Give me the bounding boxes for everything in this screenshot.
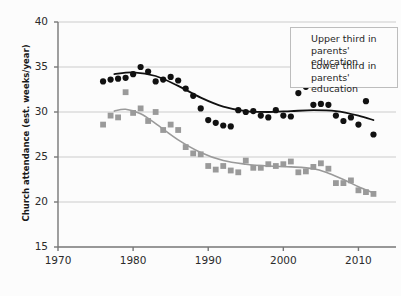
data-point — [138, 106, 144, 112]
y-tick-label: 15 — [22, 240, 48, 252]
data-point — [100, 122, 106, 128]
data-point — [288, 159, 294, 165]
data-point — [205, 163, 211, 169]
data-point — [205, 117, 211, 123]
data-point — [340, 118, 346, 124]
data-point — [280, 113, 286, 119]
legend-label-lower-third: Lower third in parents' education — [311, 60, 397, 95]
chart-figure: ...... ..... Church attendance (est. wee… — [0, 0, 401, 296]
data-point — [370, 131, 376, 137]
data-point — [318, 101, 324, 107]
data-point — [333, 113, 339, 119]
y-tick-label: 30 — [22, 105, 48, 117]
y-tick-label: 25 — [22, 150, 48, 162]
data-point — [355, 122, 361, 128]
data-point — [213, 167, 219, 173]
data-point — [228, 123, 234, 129]
data-point — [220, 122, 226, 128]
data-point — [175, 127, 181, 133]
data-point — [123, 89, 129, 95]
data-point — [303, 169, 309, 175]
data-point — [265, 114, 271, 120]
data-point — [115, 76, 121, 82]
data-point — [235, 169, 241, 175]
data-point — [138, 64, 144, 70]
y-tick-label: 35 — [22, 60, 48, 72]
data-point — [326, 166, 332, 172]
data-point — [153, 109, 159, 115]
series-lower-third — [100, 89, 376, 197]
data-point — [107, 77, 113, 83]
data-point — [325, 102, 331, 108]
data-point — [295, 169, 301, 175]
x-tick-label: 1990 — [188, 254, 228, 266]
data-point — [168, 74, 174, 80]
x-tick-label: 2000 — [263, 254, 303, 266]
chart-legend: Upper third in parents' education Lower … — [290, 27, 398, 88]
y-tick-label: 20 — [22, 195, 48, 207]
data-point — [175, 77, 181, 83]
x-tick-label: 1980 — [113, 254, 153, 266]
y-tick-label: 40 — [22, 15, 48, 27]
data-point — [100, 78, 106, 84]
data-point — [288, 113, 294, 119]
x-tick-label: 1970 — [38, 254, 78, 266]
data-point — [198, 105, 204, 111]
x-tick-label: 2010 — [338, 254, 378, 266]
circle-marker-icon — [297, 33, 311, 36]
legend-item-lower-third: Lower third in parents' education — [297, 60, 397, 95]
data-point — [190, 151, 196, 157]
data-point — [318, 160, 324, 166]
data-point — [228, 168, 234, 174]
data-point — [108, 113, 114, 119]
data-point — [115, 115, 121, 121]
data-point — [123, 75, 129, 81]
data-point — [213, 120, 219, 126]
data-point — [258, 113, 264, 119]
data-point — [153, 78, 159, 84]
data-point — [220, 163, 226, 169]
data-point — [310, 102, 316, 108]
square-marker-icon — [297, 60, 311, 63]
data-point — [243, 158, 249, 164]
data-point — [168, 122, 174, 128]
data-point — [333, 180, 339, 186]
data-point — [363, 98, 369, 104]
